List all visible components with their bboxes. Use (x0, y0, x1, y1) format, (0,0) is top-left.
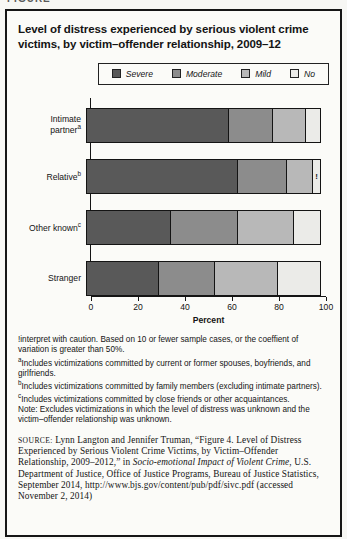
bar-segment-no (278, 262, 320, 295)
legend-swatch-moderate (172, 69, 181, 78)
bar-segment-severe (87, 211, 171, 244)
legend-label-severe: Severe (126, 69, 153, 79)
x-tick-label-80: 80 (274, 302, 284, 312)
legend-label-moderate: Moderate (186, 69, 222, 79)
category-superscript: c (78, 221, 81, 228)
bar-segment-mild (238, 211, 294, 244)
category-label-intimate-partner: Intimate partnera (18, 115, 86, 136)
footnote-marker: b (18, 379, 22, 386)
legend-item-moderate: Moderate (172, 69, 222, 79)
bar-segment-mild (215, 262, 278, 295)
x-tick-label-40: 40 (180, 302, 190, 312)
footnote-note: Note: Excludes victimizations in which t… (18, 405, 329, 426)
figure-label-cropped: FIGURE (0, 0, 347, 9)
figure-label-text: FIGURE (7, 0, 347, 4)
x-tick-label-100: 100 (319, 302, 333, 312)
legend-label-no: No (304, 69, 315, 79)
x-tick-label-0: 0 (89, 302, 94, 312)
legend-swatch-no (290, 69, 299, 78)
bar-segment-severe (87, 262, 159, 295)
bar-segment-mild (287, 160, 313, 193)
footnote--: !interpret with caution. Based on 10 or … (18, 335, 329, 356)
x-tick-100 (326, 297, 327, 301)
footnote-c: cIncludes victimizations committed by cl… (18, 392, 329, 405)
footnote-marker: a (18, 356, 22, 363)
category-superscript: a (77, 123, 81, 130)
legend-item-severe: Severe (112, 69, 153, 79)
x-tick-label-20: 20 (133, 302, 143, 312)
bar-segment-no (294, 211, 320, 244)
footnote-a: aIncludes victimizations committed by cu… (18, 356, 329, 379)
footnote-marker: ! (18, 335, 20, 344)
bar-track-relative: ! (86, 159, 321, 194)
source-label: SOURCE: (18, 436, 53, 445)
bar-track-stranger (86, 261, 321, 296)
bar-row-other-known: Other knownc (18, 210, 329, 245)
legend-label-mild: Mild (255, 69, 271, 79)
figure-box: Level of distress experienced by serious… (5, 9, 342, 537)
bar-segment-moderate (238, 160, 287, 193)
bar-track-intimate-partner (86, 108, 321, 143)
bar-segment-no: ! (313, 160, 320, 193)
footnotes: !interpret with caution. Based on 10 or … (18, 335, 329, 426)
plot-area: Intimate partneraRelativeb!Other knowncS… (18, 98, 329, 325)
x-tick-label-60: 60 (227, 302, 237, 312)
bar-segment-severe (87, 109, 229, 142)
chart-title: Level of distress experienced by serious… (18, 22, 329, 52)
legend-swatch-mild (241, 69, 250, 78)
x-tick-80 (279, 297, 280, 301)
source-citation: SOURCE: Lynn Langton and Jennifer Truman… (18, 435, 329, 503)
bar-segment-moderate (229, 109, 273, 142)
bar-rows: Intimate partneraRelativeb!Other knowncS… (18, 98, 329, 296)
legend-swatch-severe (112, 69, 121, 78)
bar-track-other-known (86, 210, 321, 245)
bar-row-stranger: Stranger (18, 261, 329, 296)
category-label-relative: Relativeb (18, 171, 86, 182)
footnote-b: bIncludes victimizations committed by fa… (18, 379, 329, 392)
bar-segment-severe (87, 160, 238, 193)
bar-segment-moderate (171, 211, 239, 244)
bar-segment-moderate (159, 262, 215, 295)
legend-item-mild: Mild (241, 69, 271, 79)
legend: SevereModerateMildNo (98, 63, 329, 85)
x-tick-20 (138, 297, 139, 301)
bar-segment-mild (273, 109, 306, 142)
x-axis-title: Percent (91, 315, 326, 325)
x-axis: 020406080100 (91, 296, 326, 313)
x-tick-0 (91, 297, 92, 301)
footnote-marker: c (18, 392, 21, 399)
source-title-italic: Socio-emotional Impact of Violent Crime (133, 457, 290, 467)
x-tick-40 (185, 297, 186, 301)
bar-segment-no (306, 109, 320, 142)
bar-row-relative: Relativeb! (18, 159, 329, 194)
legend-item-no: No (290, 69, 315, 79)
category-label-other-known: Other knownc (18, 222, 86, 233)
bar-row-intimate-partner: Intimate partnera (18, 108, 329, 143)
x-tick-60 (232, 297, 233, 301)
category-superscript: b (77, 170, 81, 177)
caution-flag: ! (315, 172, 318, 181)
category-label-stranger: Stranger (18, 274, 86, 283)
